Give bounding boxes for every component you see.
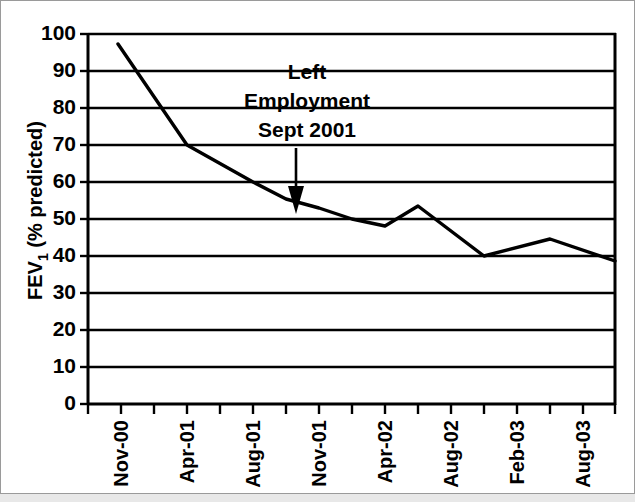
y-tick-label-60: 60 [53, 169, 76, 192]
x-tick-label-aug-03: Aug-03 [572, 420, 594, 488]
x-tick-label-apr-02: Apr-02 [374, 420, 396, 483]
chart-figure: 100 90 80 70 60 50 40 30 20 10 0 FEV1 (%… [0, 0, 635, 502]
y-tick-label-0: 0 [64, 391, 76, 414]
y-tick-label-90: 90 [53, 58, 76, 81]
y-axis-title: FEV1 (% predicted) [24, 121, 51, 300]
y-tick-label-100: 100 [41, 21, 76, 44]
y-tick-label-80: 80 [53, 95, 76, 118]
y-axis-title-base: FEV [24, 260, 46, 300]
annotation-line-1: Left [288, 60, 327, 83]
y-tick-label-50: 50 [53, 206, 76, 229]
y-axis-title-rest: (% predicted) [24, 121, 46, 253]
y-tick-label-20: 20 [53, 317, 76, 340]
x-tick-labels: Nov-00 Apr-01 Aug-01 Nov-01 Apr-02 Aug-0… [110, 420, 594, 488]
line-chart: 100 90 80 70 60 50 40 30 20 10 0 FEV1 (%… [0, 0, 635, 502]
x-tick-label-aug-02: Aug-02 [440, 420, 462, 488]
x-tick-label-feb-03: Feb-03 [506, 420, 528, 484]
x-tick-label-nov-00: Nov-00 [110, 420, 132, 487]
y-tick-label-40: 40 [53, 243, 76, 266]
y-axis-title-text: FEV1 (% predicted) [24, 121, 51, 300]
y-tick-labels: 100 90 80 70 60 50 40 30 20 10 0 [41, 21, 76, 414]
x-tick-label-nov-01: Nov-01 [308, 420, 330, 487]
annotation-line-3: Sept 2001 [258, 118, 356, 141]
left-employment-annotation: Left Employment Sept 2001 [244, 60, 370, 214]
x-tick-label-aug-01: Aug-01 [242, 420, 264, 488]
gridlines [88, 34, 616, 367]
y-tick-label-70: 70 [53, 132, 76, 155]
data-series-fev1 [118, 44, 615, 261]
annotation-line-2: Employment [244, 89, 370, 112]
y-tick-label-10: 10 [53, 354, 76, 377]
x-tick-label-apr-01: Apr-01 [176, 420, 198, 483]
y-axis-title-subscript: 1 [35, 253, 51, 261]
y-tick-label-30: 30 [53, 280, 76, 303]
